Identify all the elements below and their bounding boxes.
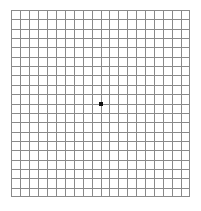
fixation-dot — [99, 102, 103, 106]
amsler-grid-chart — [0, 0, 201, 211]
grid-plate — [11, 10, 190, 197]
